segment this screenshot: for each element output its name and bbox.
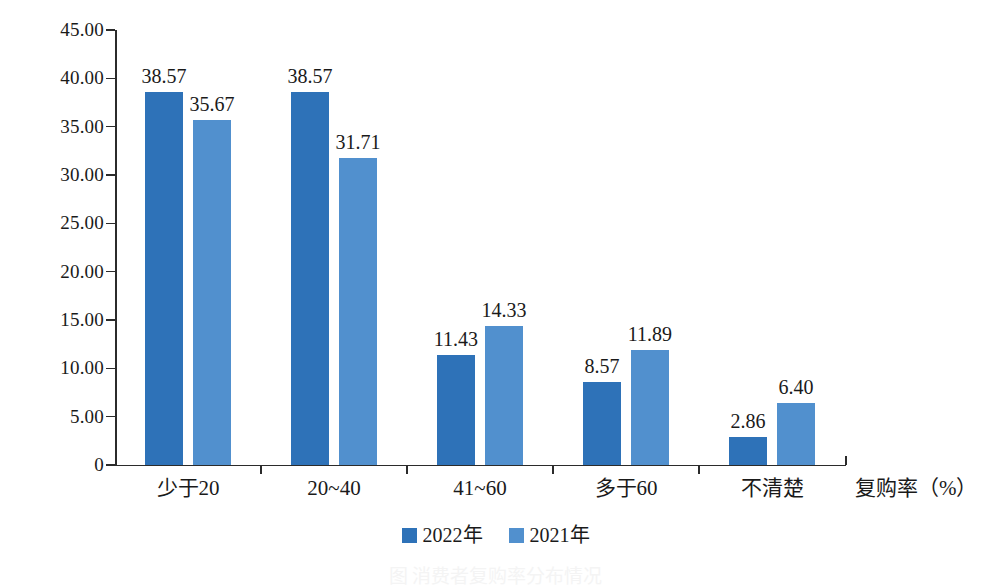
bar-value-label: 6.40 xyxy=(756,377,836,397)
x-axis-tick xyxy=(406,465,408,474)
y-axis-tick-label: 35.00 xyxy=(20,117,104,136)
legend-item-2022[interactable]: 2022年 xyxy=(402,524,483,546)
x-axis-tick xyxy=(260,465,262,474)
legend-label-2022: 2022年 xyxy=(423,524,483,546)
bar-value-label: 11.43 xyxy=(416,329,496,349)
x-axis-category-label: 20~40 xyxy=(254,476,414,500)
legend-swatch-icon-2021 xyxy=(509,528,524,543)
x-axis-tick xyxy=(552,465,554,474)
y-axis-tick-label: 45.00 xyxy=(20,20,104,39)
x-axis-category-label: 少于20 xyxy=(108,476,268,500)
x-axis-category-label: 不清楚 xyxy=(692,476,852,500)
figure-caption: 图 消费者复购率分布情况 xyxy=(0,566,991,588)
chart-legend: 2022年 2021年 xyxy=(0,524,991,546)
x-axis-title: 复购率（%） xyxy=(855,476,978,500)
y-axis-tick xyxy=(106,174,115,176)
y-axis-tick xyxy=(106,319,115,321)
bar-value-label: 11.89 xyxy=(610,324,690,344)
y-axis-tick xyxy=(106,464,115,466)
y-axis-tick xyxy=(106,271,115,273)
y-axis-tick xyxy=(106,78,115,80)
bar-value-label: 14.33 xyxy=(464,300,544,320)
bar-value-label: 38.57 xyxy=(124,66,204,86)
y-axis-tick-label: 40.00 xyxy=(20,68,104,87)
y-axis-tick-label: 15.00 xyxy=(20,310,104,329)
legend-label-2021: 2021年 xyxy=(530,524,590,546)
x-axis-category-label: 41~60 xyxy=(400,476,560,500)
bar-value-label: 38.57 xyxy=(270,66,350,86)
legend-item-2021[interactable]: 2021年 xyxy=(509,524,590,546)
y-axis-tick-label: 20.00 xyxy=(20,262,104,281)
y-axis-tick xyxy=(106,29,115,31)
bar xyxy=(193,120,231,465)
y-axis-tick-label: 5.00 xyxy=(20,407,104,426)
y-axis-tick-label: 0 xyxy=(20,455,104,474)
bar-value-label: 35.67 xyxy=(172,94,252,114)
y-axis-tick-label: 10.00 xyxy=(20,358,104,377)
bar xyxy=(583,382,621,465)
bar xyxy=(729,437,767,465)
x-axis-tick xyxy=(698,465,700,474)
y-axis-tick xyxy=(106,416,115,418)
y-axis-tick-label: 25.00 xyxy=(20,213,104,232)
y-axis-tick xyxy=(106,126,115,128)
x-axis-category-label: 多于60 xyxy=(546,476,706,500)
bar-value-label: 8.57 xyxy=(562,356,642,376)
bar-value-label: 2.86 xyxy=(708,411,788,431)
bar xyxy=(339,158,377,465)
y-axis-tick xyxy=(106,368,115,370)
bar-value-label: 31.71 xyxy=(318,132,398,152)
bar xyxy=(437,355,475,465)
x-axis-end-tick xyxy=(845,456,847,465)
bar xyxy=(145,92,183,465)
legend-swatch-icon-2022 xyxy=(402,528,417,543)
y-axis-tick xyxy=(106,223,115,225)
y-axis-tick-label: 30.00 xyxy=(20,165,104,184)
